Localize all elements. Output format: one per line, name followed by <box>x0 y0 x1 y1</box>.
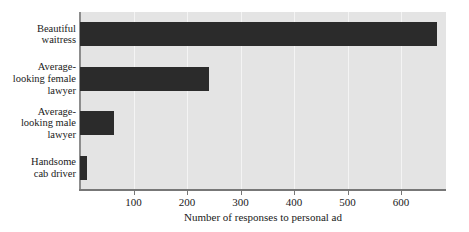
tick-mark <box>187 190 188 195</box>
category-label: Handsomecab driver <box>2 156 76 179</box>
x-axis-title: Number of responses to personal ad <box>80 211 446 223</box>
tick-label: 500 <box>328 196 368 208</box>
category-label-line: lawyer <box>2 85 76 97</box>
tick-mark <box>241 190 242 195</box>
tick-label: 600 <box>381 196 421 208</box>
tick-mark <box>134 190 135 195</box>
bar <box>80 156 87 180</box>
tick-label: 300 <box>221 196 261 208</box>
category-label-line: Handsome <box>2 156 76 168</box>
tick-label: 100 <box>114 196 154 208</box>
category-label-line: waitress <box>2 34 76 46</box>
category-label-line: lawyer <box>2 129 76 141</box>
category-label: Average-looking femalelawyer <box>2 61 76 96</box>
tick-mark <box>401 190 402 195</box>
category-label-line: looking male <box>2 117 76 129</box>
category-label: Average-looking malelawyer <box>2 106 76 141</box>
tick-label: 200 <box>167 196 207 208</box>
bar <box>80 111 114 135</box>
category-label-line: looking female <box>2 73 76 85</box>
category-label-line: Average- <box>2 106 76 118</box>
bar <box>80 22 437 46</box>
category-label-line: cab driver <box>2 168 76 180</box>
bar-chart: BeautifulwaitressAverage-looking femalel… <box>0 0 469 232</box>
tick-mark <box>294 190 295 195</box>
tick-mark <box>348 190 349 195</box>
bar <box>80 67 209 91</box>
category-label-line: Average- <box>2 61 76 73</box>
tick-label: 400 <box>274 196 314 208</box>
category-label: Beautifulwaitress <box>2 23 76 46</box>
category-label-line: Beautiful <box>2 23 76 35</box>
